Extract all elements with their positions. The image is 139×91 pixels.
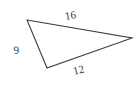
side-label-top: 16	[64, 9, 77, 22]
triangle-outline	[27, 20, 132, 68]
side-label-left: 9	[13, 44, 20, 56]
triangle-figure: 16 9 12	[0, 0, 139, 91]
